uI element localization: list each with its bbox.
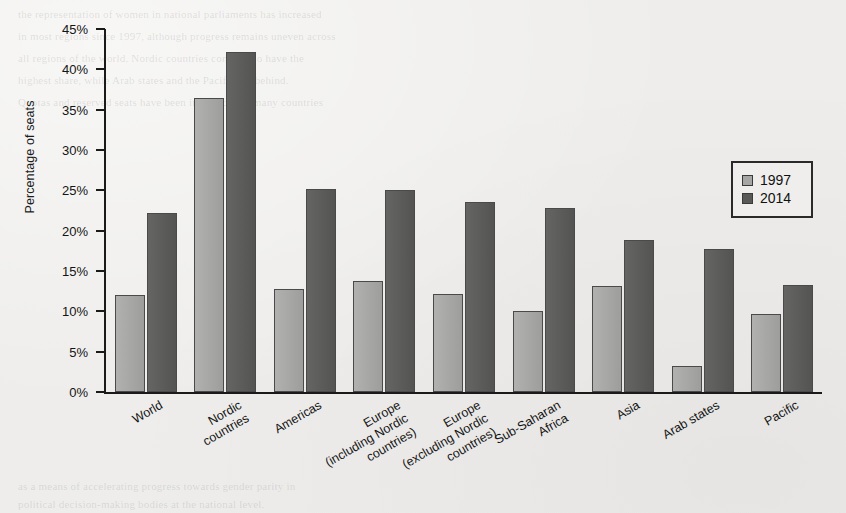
y-axis-tick-label: 35% bbox=[42, 102, 88, 117]
legend-item-1997: 1997 bbox=[742, 172, 802, 188]
y-axis-tick-mark bbox=[96, 391, 105, 393]
y-axis-tick-mark bbox=[96, 149, 105, 151]
y-axis-tick-label: 15% bbox=[42, 264, 88, 279]
y-axis-tick-label: 5% bbox=[42, 344, 88, 359]
scanned-page-background: the representation of women in national … bbox=[0, 0, 846, 513]
legend-label: 1997 bbox=[760, 172, 791, 188]
y-axis-tick-mark bbox=[96, 189, 105, 191]
y-axis-tick-label: 30% bbox=[42, 143, 88, 158]
y-axis-tick-mark bbox=[96, 351, 105, 353]
y-axis-tick-mark bbox=[96, 68, 105, 70]
bar-1997-6 bbox=[592, 286, 622, 392]
y-axis-tick-mark bbox=[96, 270, 105, 272]
bar-2014-2 bbox=[306, 189, 336, 392]
y-axis-tick-labels: 45%40%35%30%25%20%15%10%5%0% bbox=[42, 0, 88, 513]
bar-2014-8 bbox=[783, 285, 813, 392]
bar-2014-4 bbox=[465, 202, 495, 392]
bar-1997-5 bbox=[513, 311, 543, 392]
y-axis-tick-mark bbox=[96, 230, 105, 232]
y-axis-tick-label: 10% bbox=[42, 304, 88, 319]
bar-1997-4 bbox=[433, 294, 463, 392]
bar-2014-5 bbox=[545, 208, 575, 392]
y-axis-tick-label: 20% bbox=[42, 223, 88, 238]
y-axis-tick-label: 45% bbox=[42, 22, 88, 37]
bar-1997-2 bbox=[274, 289, 304, 392]
legend-item-2014: 2014 bbox=[742, 190, 802, 206]
bar-2014-1 bbox=[226, 52, 256, 392]
dark-gray-swatch-icon bbox=[742, 193, 753, 204]
y-axis-tick-label: 40% bbox=[42, 62, 88, 77]
y-axis-tick-label: 0% bbox=[42, 385, 88, 400]
bar-1997-0 bbox=[115, 295, 145, 392]
bar-chart: Percentage of seats 45%40%35%30%25%20%15… bbox=[0, 0, 846, 513]
y-axis-title: Percentage of seats bbox=[23, 57, 37, 257]
bar-1997-8 bbox=[751, 314, 781, 392]
chart-legend: 1997 2014 bbox=[731, 161, 813, 218]
legend-label: 2014 bbox=[760, 190, 791, 206]
bar-1997-3 bbox=[353, 281, 383, 392]
y-axis-tick-mark bbox=[96, 28, 105, 30]
bar-1997-7 bbox=[672, 366, 702, 392]
light-gray-swatch-icon bbox=[742, 175, 753, 186]
bar-2014-7 bbox=[704, 249, 734, 392]
bar-2014-0 bbox=[147, 213, 177, 392]
y-axis-tick-label: 25% bbox=[42, 183, 88, 198]
y-axis-tick-mark bbox=[96, 310, 105, 312]
bar-2014-6 bbox=[624, 240, 654, 392]
bar-2014-3 bbox=[385, 190, 415, 392]
bar-1997-1 bbox=[194, 98, 224, 392]
y-axis-tick-mark bbox=[96, 109, 105, 111]
